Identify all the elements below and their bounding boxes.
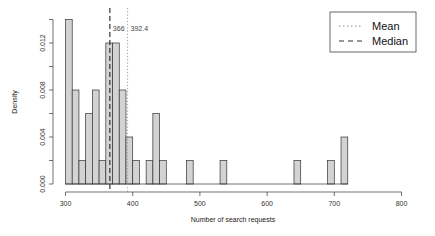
y-axis: 0.0000.0040.0080.012	[39, 20, 53, 193]
histogram-bar	[119, 90, 126, 184]
x-axis-title: Number of search requests	[191, 216, 276, 224]
histogram-bar	[146, 161, 153, 185]
histogram-bar	[106, 43, 113, 184]
histogram-bar	[133, 161, 140, 185]
x-tick-label: 600	[261, 200, 273, 207]
histogram-bar	[66, 20, 73, 185]
y-tick-label: 0.012	[39, 34, 46, 52]
y-tick-label: 0.008	[39, 81, 46, 99]
x-tick-label: 300	[60, 200, 72, 207]
histogram-bar	[186, 161, 193, 185]
histogram-bar	[341, 137, 348, 184]
histogram-bar	[220, 161, 227, 185]
histogram-bar	[126, 137, 133, 184]
mean-value-label: 392.4	[131, 25, 149, 32]
x-tick-label: 800	[396, 200, 408, 207]
histogram-bar	[86, 114, 93, 185]
histogram-bar	[79, 161, 86, 185]
x-axis: 300400500600700800	[60, 192, 408, 207]
y-tick-label: 0.004	[39, 128, 46, 146]
x-tick-label: 700	[328, 200, 340, 207]
histogram-bar	[72, 90, 79, 184]
histogram-chart: 392.4366 300400500600700800 0.0000.0040.…	[0, 0, 435, 236]
legend: Mean Median	[330, 12, 416, 52]
histogram-bar	[99, 161, 106, 185]
median-value-label: 366	[113, 25, 125, 32]
histogram-bars	[66, 20, 348, 185]
histogram-bar	[328, 161, 335, 185]
legend-median-label: Median	[372, 35, 408, 47]
histogram-bar	[160, 161, 167, 185]
y-tick-label: 0.000	[39, 175, 46, 193]
x-tick-label: 500	[194, 200, 206, 207]
histogram-bar	[92, 90, 99, 184]
legend-mean-label: Mean	[372, 20, 400, 32]
y-axis-title: Density	[11, 90, 19, 114]
histogram-bar	[153, 114, 160, 185]
histogram-bar	[294, 161, 301, 185]
histogram-bar	[113, 43, 120, 184]
x-tick-label: 400	[127, 200, 139, 207]
